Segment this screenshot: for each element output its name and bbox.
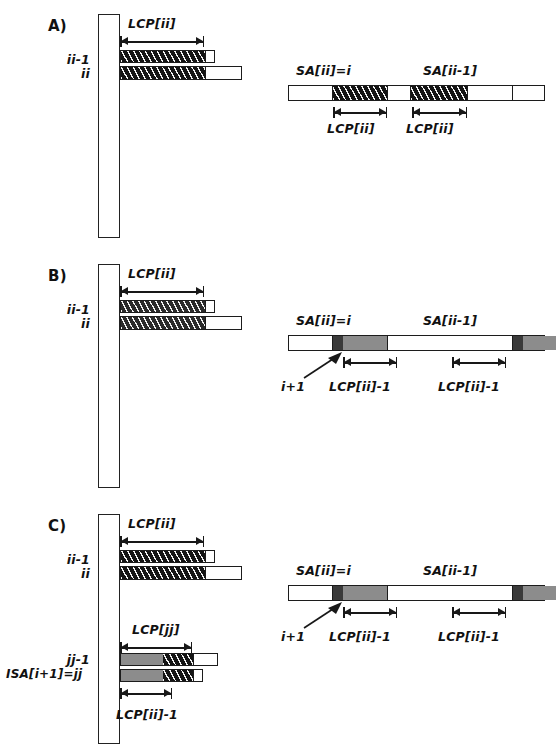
panel-b-lcp-dimension <box>120 286 204 297</box>
panel-b-sa-left-label: SA[ii]=i <box>296 313 351 328</box>
panel-c-lcp-label: LCP[ii] <box>128 516 176 531</box>
panel-b-lcp-label: LCP[ii] <box>128 266 176 281</box>
panel-b-spine <box>98 264 120 488</box>
panel-a-lcp-dimension <box>120 36 204 47</box>
panel-b-row-label-1: ii <box>52 316 90 331</box>
panel-c-bar-ii <box>120 566 242 580</box>
panel-a-text-strip-block-2 <box>410 85 468 101</box>
panel-c-lcp-jj-label: LCP[jj] <box>132 622 180 637</box>
panel-a-sa-right-label: SA[ii-1] <box>423 63 477 78</box>
panel-c-bar-jj-minus-1 <box>120 653 218 666</box>
panel-b-dim-right-label: LCP[ii]-1 <box>438 379 500 394</box>
panel-a-spine <box>98 14 120 238</box>
panel-c-bar-jj <box>120 669 203 682</box>
panel-a-row-label-1: ii <box>52 66 90 81</box>
panel-a-bar-ii-minus-1 <box>120 50 215 63</box>
panel-b-letter: B) <box>48 267 67 285</box>
panel-a-lcp-label: LCP[ii] <box>128 16 176 31</box>
panel-a-row-label-0: ii-1 <box>52 52 90 67</box>
panel-a-sa-left-label: SA[ii]=i <box>296 63 351 78</box>
panel-c-text-strip <box>288 585 545 601</box>
panel-c-dim-right-label: LCP[ii]-1 <box>438 629 500 644</box>
panel-b-dim-right <box>452 357 506 368</box>
panel-c-dim-left-label: LCP[ii]-1 <box>329 629 391 644</box>
panel-a-letter: A) <box>48 17 67 35</box>
panel-b-text-strip <box>288 335 545 351</box>
panel-a-dim-right-label: LCP[ii] <box>406 121 454 136</box>
panel-c-sa-right-label: SA[ii-1] <box>423 563 477 578</box>
panel-a-dim-left-label: LCP[ii] <box>327 121 375 136</box>
panel-c-dim-bottom <box>120 688 172 699</box>
panel-c-dim-bottom-label: LCP[ii]-1 <box>116 707 178 722</box>
panel-c-row-label-jj-minus-1: jj-1 <box>52 652 90 667</box>
panel-b-sa-right-label: SA[ii-1] <box>423 313 477 328</box>
panel-b-pointer-label: i+1 <box>281 379 305 394</box>
panel-c-bar-ii-minus-1 <box>120 550 215 563</box>
panel-b-dim-left-label: LCP[ii]-1 <box>329 379 391 394</box>
panel-c-lcp-dimension <box>120 536 204 547</box>
panel-c-dim-left <box>343 607 397 618</box>
panel-c-pointer-label: i+1 <box>281 629 305 644</box>
panel-a-dim-left <box>333 107 387 118</box>
panel-c-letter: C) <box>48 517 66 535</box>
panel-c-row-label-isa: ISA[i+1]=jj <box>6 667 82 681</box>
panel-b-bar-ii <box>120 316 242 330</box>
panel-c-sa-left-label: SA[ii]=i <box>296 563 351 578</box>
panel-c-row-label-1: ii <box>52 566 90 581</box>
panel-b-row-label-0: ii-1 <box>52 302 90 317</box>
figure-canvas: A) LCP[ii] ii-1 ii SA[ii]=i SA[ii-1] <box>0 0 556 745</box>
panel-a-dim-right <box>412 107 467 118</box>
panel-a-bar-ii <box>120 66 242 80</box>
panel-c-row-label-0: ii-1 <box>52 552 90 567</box>
panel-c-lcp-jj-dimension <box>120 642 192 653</box>
panel-b-bar-ii-minus-1 <box>120 300 215 313</box>
panel-c-dim-right <box>452 607 506 618</box>
panel-b-dim-left <box>343 357 397 368</box>
